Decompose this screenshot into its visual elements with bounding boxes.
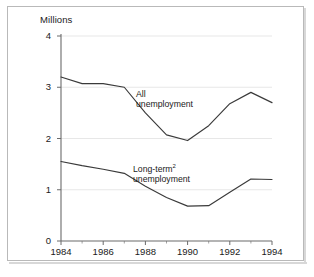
y-tick-label-0: 0 [37, 235, 51, 246]
series-annotation-lt-line1: Long-term2 [133, 164, 190, 174]
x-tick-label-1992: 1992 [214, 246, 246, 257]
x-axis-ticks [61, 241, 272, 245]
x-tick-label-1994: 1994 [256, 246, 288, 257]
x-tick-label-1988: 1988 [129, 246, 161, 257]
series-annotation-all-line2: unemployment [136, 99, 193, 109]
x-tick-label-1990: 1990 [172, 246, 204, 257]
series-annotation-long-term-unemployment: Long-term2 unemployment [133, 164, 190, 184]
chart-figure: Millions 01234 198419861988199019921994 … [0, 0, 314, 277]
y-axis-ticks [57, 36, 61, 241]
y-tick-label-1: 1 [37, 184, 51, 195]
series-annotation-lt-line2: unemployment [133, 174, 190, 184]
series-annotation-all-line1: All [136, 89, 193, 99]
series-annotation-lt-text: Long-term [133, 164, 173, 174]
x-tick-label-1986: 1986 [87, 246, 119, 257]
series-annotation-all-unemployment: All unemployment [136, 89, 193, 109]
y-tick-label-2: 2 [37, 133, 51, 144]
y-tick-label-4: 4 [37, 30, 51, 41]
x-tick-label-1984: 1984 [45, 246, 77, 257]
y-tick-label-3: 3 [37, 81, 51, 92]
series-annotation-lt-superscript: 2 [173, 163, 176, 169]
